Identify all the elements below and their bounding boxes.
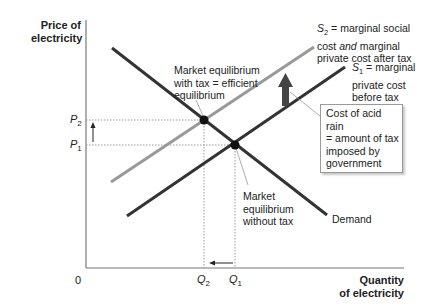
q1-tick-label: Q1	[229, 273, 242, 288]
demand-label: Demand	[332, 213, 372, 226]
s2-label: S2 = marginal social cost and marginal p…	[317, 22, 412, 65]
p2-tick-label: P2	[70, 113, 82, 128]
x-axis-title: Quantity of electricity	[320, 274, 404, 300]
equilibrium-with-tax-dot	[200, 116, 209, 125]
equilibrium-with-tax-label: Market equilibrium with tax = efficient …	[174, 64, 260, 102]
equilibrium-without-tax-dot	[231, 141, 240, 150]
equilibrium-without-tax-label: Market equilibrium without tax	[243, 190, 294, 228]
q2-tick-label: Q2	[197, 273, 210, 288]
x-axis-title-line2: of electricity	[320, 287, 404, 300]
price-increase-arrow-icon	[91, 122, 96, 142]
x-axis-title-line1: Quantity	[320, 274, 404, 287]
quantity-decrease-arrow-icon	[209, 261, 233, 266]
p1-tick-label: P1	[70, 138, 82, 153]
s1-label: S1 = marginal private cost before tax	[352, 61, 415, 104]
acid-rain-cost-callout: Cost of acid rain = amount of tax impose…	[320, 104, 403, 173]
origin-label: 0	[75, 274, 81, 287]
y-axis-title-line2: electricity	[31, 32, 81, 45]
y-axis-title-line1: Price of	[31, 19, 81, 32]
tax-shift-arrow-icon	[278, 73, 293, 106]
y-axis-title: Price of electricity	[31, 19, 81, 45]
